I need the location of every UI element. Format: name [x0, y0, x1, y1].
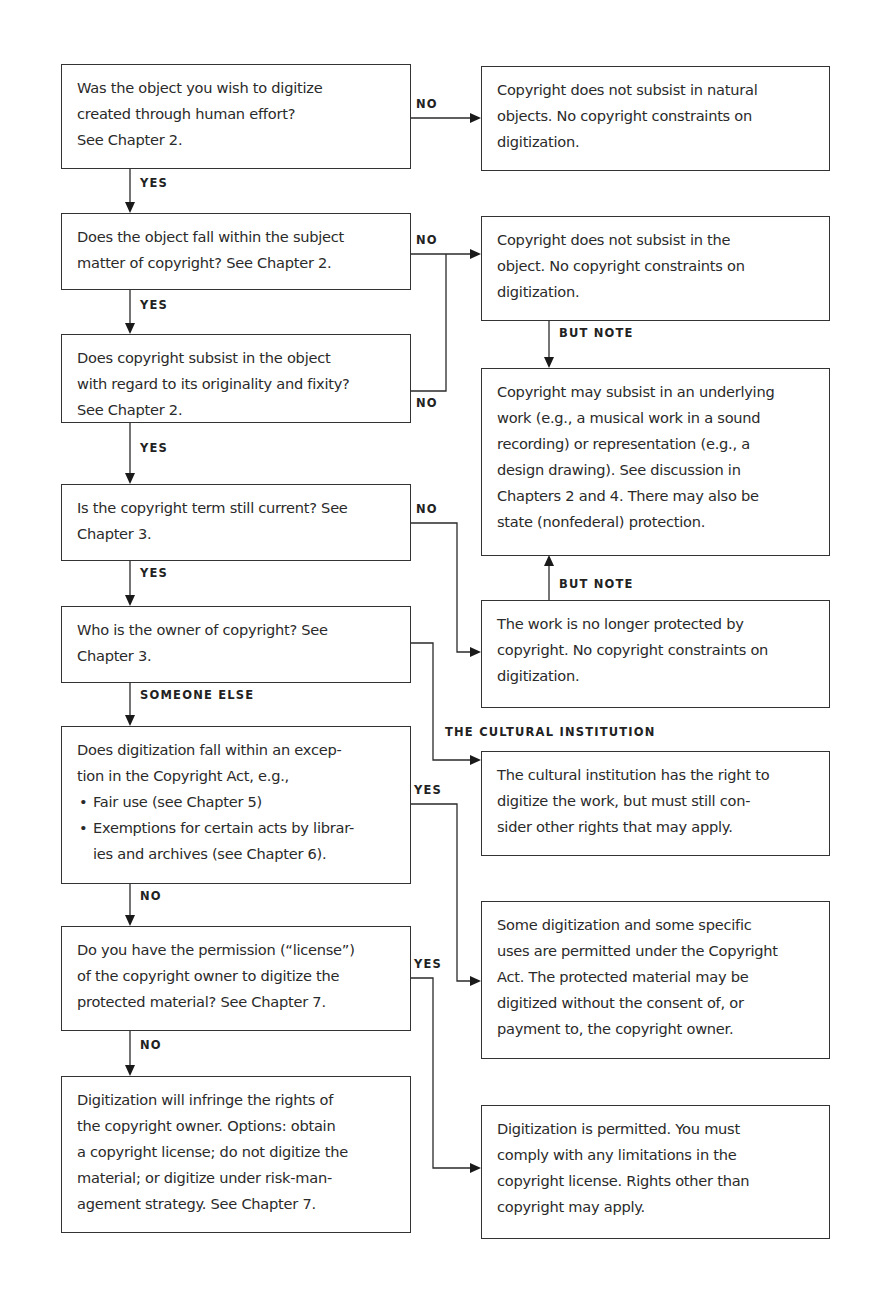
question-box-copyright-owner: Who is the owner of copyright? See Chapt…: [61, 606, 411, 683]
box-line: digitization.: [497, 279, 815, 305]
box-line: Digitization will infringe the rights of: [77, 1087, 396, 1113]
question-box-term-current: Is the copyright term still current? See…: [61, 484, 411, 561]
box-line: design drawing). See discussion in: [497, 457, 815, 483]
question-box-human-effort: Was the object you wish to digitize crea…: [61, 64, 411, 169]
outcome-box-exception-permitted: Some digitization and some specific uses…: [481, 901, 830, 1059]
outcome-box-no-longer-protected: The work is no longer protected by copyr…: [481, 600, 830, 708]
question-box-exception: Does digitization fall within an excep- …: [61, 726, 411, 884]
box-line: copyright license. Rights other than: [497, 1168, 815, 1194]
box-line: Digitization is permitted. You must: [497, 1116, 815, 1142]
edge-label-q7-no: NO: [140, 1038, 162, 1052]
arrowhead-down-icon: [125, 1065, 135, 1076]
exception-item-libraries: Exemptions for certain acts by librar-ie…: [77, 815, 396, 867]
edge-label-r4-but-note: BUT NOTE: [559, 577, 634, 591]
box-line: Some digitization and some specific: [497, 912, 815, 938]
box-line: Copyright does not subsist in the: [497, 227, 815, 253]
box-line: copyright may apply.: [497, 1194, 815, 1220]
connector-q4-no: [410, 523, 470, 652]
box-line: matter of copyright? See Chapter 2.: [77, 250, 396, 276]
note-box-underlying-work: Copyright may subsist in an underlying w…: [481, 368, 830, 556]
box-line: Copyright does not subsist in natural: [497, 77, 815, 103]
arrowhead-right-icon: [470, 1163, 481, 1173]
connector-q3-no: [410, 254, 446, 391]
box-line: with regard to its originality and fixit…: [77, 371, 396, 397]
box-line: Chapters 2 and 4. There may also be: [497, 483, 815, 509]
box-line: comply with any limitations in the: [497, 1142, 815, 1168]
edge-label-q1-yes: YES: [140, 176, 168, 190]
connector-q6-yes: [410, 804, 470, 981]
box-line: state (nonfederal) protection.: [497, 509, 815, 535]
exception-item-fair-use: Fair use (see Chapter 5): [77, 789, 396, 815]
connector-q5-institution: [410, 643, 470, 760]
box-line: protected material? See Chapter 7.: [77, 989, 396, 1015]
edge-label-q3-no: NO: [416, 396, 438, 410]
edge-label-q5-someone-else: SOMEONE ELSE: [140, 688, 254, 702]
box-line: Is the copyright term still current? See: [77, 495, 396, 521]
edge-label-q2-no: NO: [416, 233, 438, 247]
outcome-box-license-permitted: Digitization is permitted. You must comp…: [481, 1105, 830, 1239]
box-line: uses are permitted under the Copyright: [497, 938, 815, 964]
question-box-subject-matter: Does the object fall within the subject …: [61, 213, 411, 290]
edge-label-q7-yes: YES: [414, 957, 442, 971]
arrowhead-up-icon: [544, 555, 554, 566]
box-line: The cultural institution has the right t…: [497, 762, 815, 788]
box-line: See Chapter 2.: [77, 397, 396, 423]
box-line: digitization.: [497, 663, 815, 689]
edge-label-q4-no: NO: [416, 502, 438, 516]
box-line: Does the object fall within the subject: [77, 224, 396, 250]
arrowhead-down-icon: [125, 473, 135, 484]
box-line: Chapter 3.: [77, 521, 396, 547]
arrowhead-down-icon: [544, 357, 554, 368]
edge-label-q1-no: NO: [416, 97, 438, 111]
box-line: object. No copyright constraints on: [497, 253, 815, 279]
box-line: Does copyright subsist in the object: [77, 345, 396, 371]
outcome-box-natural-objects: Copyright does not subsist in natural ob…: [481, 66, 830, 171]
box-line: objects. No copyright constraints on: [497, 103, 815, 129]
arrowhead-right-icon: [470, 647, 481, 657]
box-line: tion in the Copyright Act, e.g.,: [77, 763, 396, 789]
arrowhead-down-icon: [125, 715, 135, 726]
outcome-box-not-subsist: Copyright does not subsist in the object…: [481, 216, 830, 321]
box-line: Was the object you wish to digitize: [77, 75, 396, 101]
box-line: Act. The protected material may be: [497, 964, 815, 990]
question-box-originality-fixity: Does copyright subsist in the object wit…: [61, 334, 411, 423]
outcome-box-infringement: Digitization will infringe the rights of…: [61, 1076, 411, 1233]
box-line: recording) or representation (e.g., a: [497, 431, 815, 457]
arrowhead-right-icon: [470, 755, 481, 765]
arrowhead-down-icon: [125, 323, 135, 334]
box-line: digitize the work, but must still con-: [497, 788, 815, 814]
edge-label-q4-yes: YES: [140, 566, 168, 580]
arrowhead-down-icon: [125, 202, 135, 213]
box-line: See Chapter 2.: [77, 127, 396, 153]
edge-label-q5-institution: THE CULTURAL INSTITUTION: [445, 725, 656, 739]
box-line: work (e.g., a musical work in a sound: [497, 405, 815, 431]
box-line: Chapter 3.: [77, 643, 396, 669]
outcome-box-institution-right: The cultural institution has the right t…: [481, 751, 830, 856]
box-line: payment to, the copyright owner.: [497, 1016, 815, 1042]
box-line: The work is no longer protected by: [497, 611, 815, 637]
box-line: digitized without the consent of, or: [497, 990, 815, 1016]
edge-label-q3-yes: YES: [140, 441, 168, 455]
box-line: digitization.: [497, 129, 815, 155]
box-line: agement strategy. See Chapter 7.: [77, 1191, 396, 1217]
exception-list: Fair use (see Chapter 5) Exemptions for …: [77, 789, 396, 867]
arrowhead-down-icon: [125, 915, 135, 926]
arrowhead-right-icon: [470, 976, 481, 986]
box-line: sider other rights that may apply.: [497, 814, 815, 840]
box-line: copyright. No copyright constraints on: [497, 637, 815, 663]
box-line: Copyright may subsist in an underlying: [497, 379, 815, 405]
question-box-permission: Do you have the permission (“license”) o…: [61, 926, 411, 1031]
box-line: Do you have the permission (“license”): [77, 937, 396, 963]
edge-label-q6-no: NO: [140, 889, 162, 903]
arrowhead-right-icon: [470, 113, 481, 123]
connector-q7-yes: [410, 978, 470, 1168]
box-line: the copyright owner. Options: obtain: [77, 1113, 396, 1139]
box-line: material; or digitize under risk-man-: [77, 1165, 396, 1191]
edge-label-q6-yes: YES: [414, 783, 442, 797]
arrowhead-down-icon: [125, 595, 135, 606]
edge-label-q2-yes: YES: [140, 298, 168, 312]
arrowhead-right-icon: [470, 249, 481, 259]
edge-label-r2-but-note: BUT NOTE: [559, 326, 634, 340]
box-line: a copyright license; do not digitize the: [77, 1139, 396, 1165]
box-line: created through human effort?: [77, 101, 396, 127]
